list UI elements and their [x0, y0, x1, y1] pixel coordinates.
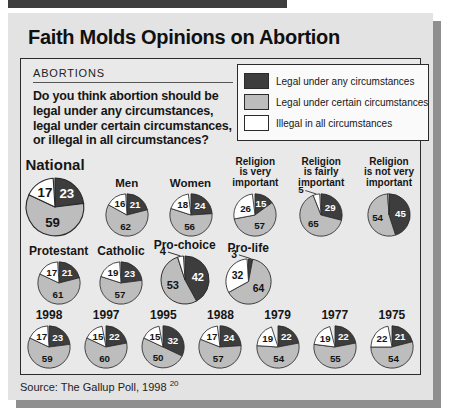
slice-value-label: 45 — [395, 208, 406, 219]
question-line: or illegal in all circumstances? — [33, 133, 232, 148]
legend-item: Illegal in all circumstances — [244, 115, 422, 131]
legend: Legal under any circumstances Legal unde… — [237, 64, 429, 141]
slice-value-label: 17 — [46, 267, 57, 278]
slice-value-label: 15 — [150, 331, 161, 342]
pie-chart: 245618 — [169, 193, 213, 237]
source-citation: Source: The Gallup Poll, 1998 20 — [20, 379, 179, 393]
pie-title: Women — [170, 177, 211, 190]
pie-group-pro-life: Pro-life36432 — [225, 242, 272, 305]
pie-group-religion-is-very-important: Religionis veryimportant155726 — [232, 157, 278, 237]
slice-value-label: 17 — [36, 331, 47, 342]
pie-title: 1998 — [36, 309, 63, 322]
slice-value-label: 56 — [184, 221, 195, 232]
pie-group-1975: 1975215422 — [370, 309, 414, 369]
source-superscript: 20 — [170, 379, 179, 388]
slice-value-label: 54 — [388, 353, 399, 364]
pie-chart: 225419 — [256, 325, 300, 369]
pie-chart: 235917 — [27, 325, 71, 369]
slice-value-label: 60 — [99, 353, 110, 364]
slice-value-label: 23 — [124, 268, 135, 279]
callout-value-label: 3 — [231, 249, 237, 260]
slice-value-label: 42 — [191, 271, 203, 283]
pie-chart: 235719 — [99, 261, 143, 305]
pie-group-catholic: Catholic235719 — [97, 245, 144, 305]
pie-group-pro-choice: Pro-choice42534 — [154, 239, 216, 305]
pie-group-national: National235917 — [25, 157, 85, 238]
slice-value-label: 29 — [325, 202, 336, 213]
pie-group-1977: 1977225519 — [313, 309, 357, 369]
slice-value-label: 57 — [255, 220, 266, 231]
pie-group-religion-is-not-very-important: Religionis not veryimportant4554 — [364, 157, 414, 237]
pie-title: 1977 — [321, 309, 348, 322]
slice-value-label: 55 — [330, 353, 341, 364]
slice-value-label: 32 — [232, 270, 244, 281]
slice-value-label: 21 — [129, 199, 140, 210]
pie-title: Men — [115, 177, 138, 190]
slice-value-label: 59 — [42, 353, 53, 364]
slice-value-label: 50 — [153, 352, 164, 363]
slice-value-label: 54 — [273, 353, 284, 364]
question-line: legal under any circumstances, — [33, 104, 232, 119]
question-line: legal under certain circumstances, — [33, 119, 232, 134]
callout-leader-line — [305, 191, 316, 194]
pie-group-1998: 1998235917 — [27, 309, 71, 369]
pie-row-demographics: National235917Men216216Women245618Religi… — [25, 153, 414, 237]
pie-chart: 225519 — [313, 325, 357, 369]
callout-leader-line — [239, 255, 251, 259]
top-accent-bar — [8, 0, 287, 8]
slice-value-label: 18 — [177, 199, 188, 210]
pie-chart: 215422 — [370, 325, 414, 369]
slice-value-label: 23 — [59, 186, 74, 201]
slice-value-label: 54 — [372, 212, 383, 223]
slice-value-label: 64 — [252, 283, 264, 294]
chart-area: ABORTIONS Do you think abortion should b… — [20, 58, 421, 375]
pie-chart: 4554 — [367, 193, 411, 237]
pie-group-religion-is-fairly-important: Religionis fairlyimportant29655 — [298, 157, 344, 237]
infographic-panel: Faith Molds Opinions on Abortion ABORTIO… — [8, 13, 433, 400]
slice-value-label: 24 — [194, 200, 205, 211]
pie-chart: 216216 — [105, 193, 149, 237]
pie-title: National — [25, 157, 84, 174]
slice-value-label: 15 — [93, 331, 104, 342]
pie-chart: 42534 — [160, 255, 210, 305]
pie-title: Catholic — [97, 245, 144, 258]
slice-value-label: 19 — [108, 267, 119, 278]
pie-group-1997: 1997226015 — [84, 309, 128, 369]
legend-label: Legal under certain circumstances — [276, 97, 428, 108]
pie-chart: 216117 — [37, 261, 81, 305]
legend-swatch-any — [244, 73, 269, 89]
slice-value-label: 22 — [281, 331, 292, 342]
callout-leader-line — [168, 252, 181, 256]
pie-row-religion-stance: Protestant216117Catholic235719Pro-choice… — [29, 245, 329, 305]
survey-question: Do you think abortion should be legal un… — [33, 89, 232, 148]
section-kicker: ABORTIONS — [33, 67, 233, 83]
slice-value-label: 19 — [262, 333, 273, 344]
pie-title: Religionis veryimportant — [232, 157, 278, 189]
pie-chart: 29655 — [299, 193, 343, 237]
pie-group-1988: 1988245717 — [198, 309, 242, 369]
pie-group-1979: 1979225419 — [256, 309, 300, 369]
pie-title: 1979 — [264, 309, 291, 322]
legend-label: Legal under any circumstances — [276, 76, 414, 87]
legend-item: Legal under certain circumstances — [244, 94, 422, 110]
slice-value-label: 22 — [376, 333, 387, 344]
pie-chart: 155726 — [233, 193, 277, 237]
pie-chart: 325015 — [141, 325, 185, 369]
slice-value-label: 57 — [213, 353, 224, 364]
pie-chart: 226015 — [84, 325, 128, 369]
slice-value-label: 19 — [320, 333, 331, 344]
pie-title: Religionis not veryimportant — [364, 157, 414, 189]
slice-value-label: 65 — [308, 218, 319, 229]
page-title: Faith Molds Opinions on Abortion — [28, 26, 428, 49]
pie-title: 1997 — [93, 309, 120, 322]
slice-value-label: 26 — [240, 203, 251, 214]
slice-value-label: 57 — [115, 289, 126, 300]
source-text: Source: The Gallup Poll, 1998 — [20, 381, 167, 393]
question-line: Do you think abortion should be — [33, 89, 232, 104]
legend-swatch-certain — [244, 94, 269, 110]
pie-title: 1995 — [150, 309, 177, 322]
pie-group-protestant: Protestant216117 — [29, 245, 88, 305]
pie-chart: 235917 — [25, 177, 85, 237]
slice-value-label: 21 — [395, 331, 406, 342]
slice-value-label: 22 — [338, 331, 349, 342]
